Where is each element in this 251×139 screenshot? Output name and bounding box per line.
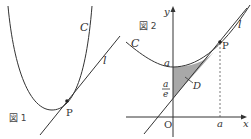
curve-c-label-fig2: C	[131, 37, 140, 50]
curve-c-fig2	[126, 5, 250, 67]
y-intercept-tangent-denominator: e	[163, 89, 168, 99]
figure-2: y x 図 2 C l P D O a a e a	[126, 5, 250, 137]
point-p-fig1	[65, 99, 69, 103]
figure-2-caption: 図 2	[139, 21, 157, 31]
y-intercept-curve-label: a	[164, 57, 170, 68]
tangent-l-label-fig1: l	[103, 54, 107, 67]
y-axis-label: y	[163, 6, 170, 17]
point-p-label-fig1: P	[66, 107, 73, 118]
region-d-label: D	[192, 80, 201, 91]
x-tick-a-label: a	[217, 118, 223, 129]
tangent-l-fig2	[144, 8, 247, 134]
figure-1-caption: 図 1	[9, 113, 27, 123]
y-axis-arrow-icon	[171, 6, 176, 12]
curve-c-label-fig1: C	[80, 21, 89, 34]
y-intercept-tangent-numerator: a	[163, 79, 168, 89]
figure-1: C l P 図 1	[8, 6, 120, 135]
tangent-l-fig1	[40, 36, 120, 135]
diagram-canvas: C l P 図 1 y x 図 2 C l P D O a a e	[0, 0, 251, 139]
x-axis-label: x	[243, 118, 249, 129]
tangent-l-label-fig2: l	[238, 18, 242, 31]
origin-label: O	[164, 119, 172, 130]
point-p-label-fig2: P	[222, 40, 229, 51]
